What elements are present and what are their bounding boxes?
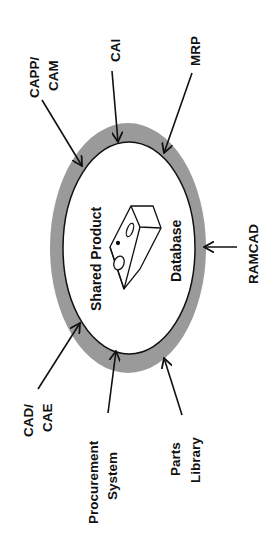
label-capp-cam-2: CAM bbox=[46, 60, 61, 91]
center-label-line1: Shared Product bbox=[88, 206, 104, 311]
label-procurement-2: System bbox=[105, 452, 120, 500]
label-cad-cae-2: CAE bbox=[40, 403, 55, 432]
label-ramcad: RAMCAD bbox=[246, 224, 261, 284]
label-capp-cam-1: CAPP/ bbox=[27, 56, 42, 98]
integration-diagram: Shared Product Database CAPP/ CAM CAI MR… bbox=[0, 0, 269, 558]
label-parts-library-1: Parts bbox=[168, 442, 183, 476]
arrow-capp-cam bbox=[42, 100, 82, 166]
label-mrp: MRP bbox=[188, 36, 203, 66]
arrow-parts-library bbox=[164, 358, 182, 415]
arrow-cad-cae bbox=[38, 323, 80, 389]
label-cai: CAI bbox=[108, 39, 123, 62]
label-procurement-1: Procurement bbox=[86, 440, 101, 524]
label-cad-cae-1: CAD/ bbox=[21, 404, 36, 437]
arrow-mrp bbox=[164, 73, 192, 153]
center-label-line2: Database bbox=[168, 220, 184, 282]
label-parts-library-2: Library bbox=[188, 437, 203, 483]
